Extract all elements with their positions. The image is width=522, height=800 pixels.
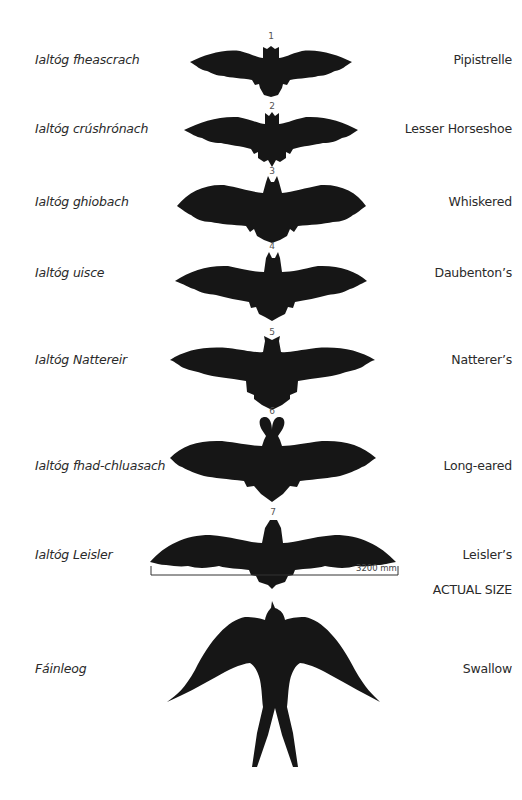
species-number: 2	[269, 101, 275, 111]
english-name-natterers: Natterer’s	[451, 352, 512, 367]
bat-icon-leislers	[150, 520, 396, 589]
bat-icon-natterers	[170, 336, 375, 410]
irish-name-whiskered: Ialtóg ghiobach	[35, 194, 129, 209]
species-number: 5	[269, 327, 275, 337]
species-number: 4	[269, 241, 275, 251]
swallow-icon	[167, 601, 380, 767]
species-number: 3	[269, 166, 275, 176]
scale-bar-label: 3200 mm	[356, 563, 397, 573]
irish-name-lesser-horseshoe: Ialtóg crúshrónach	[35, 121, 148, 136]
bat-icon-whiskered	[177, 176, 366, 243]
bat-icon-pipistrelle	[190, 46, 352, 97]
english-name-lesser-horseshoe: Lesser Horseshoe	[405, 121, 512, 136]
irish-name-swallow: Fáinleog	[35, 661, 86, 676]
english-name-swallow: Swallow	[463, 661, 512, 676]
actual-size-note: ACTUAL SIZE	[433, 582, 512, 597]
species-number: 1	[268, 31, 274, 41]
irish-name-long-eared: Ialtóg fhad-chluasach	[35, 458, 165, 473]
bat-icon-lesser-horseshoe	[184, 112, 358, 167]
species-number: 7	[270, 507, 276, 517]
english-name-pipistrelle: Pipistrelle	[453, 52, 512, 67]
irish-name-pipistrelle: Ialtóg fheascrach	[35, 52, 140, 67]
bat-icon-long-eared	[170, 417, 376, 502]
irish-name-natterers: Ialtóg Nattereir	[35, 352, 127, 367]
irish-name-leislers: Ialtóg Leisler	[35, 547, 112, 562]
english-name-whiskered: Whiskered	[449, 194, 512, 209]
english-name-daubentons: Daubenton’s	[434, 265, 512, 280]
bat-icon-daubentons	[175, 252, 367, 321]
silhouette-figures	[0, 0, 522, 800]
irish-name-daubentons: Ialtóg uisce	[35, 265, 104, 280]
english-name-leislers: Leisler’s	[463, 547, 512, 562]
species-number: 6	[269, 406, 275, 416]
english-name-long-eared: Long-eared	[443, 458, 512, 473]
